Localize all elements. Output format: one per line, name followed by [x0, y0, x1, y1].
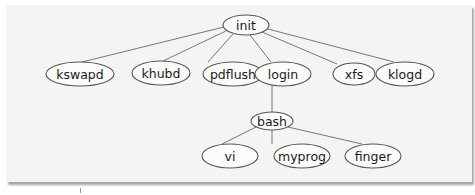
node-init: init [223, 15, 269, 35]
node-label: khubd [142, 66, 181, 81]
edge-init-khubd [163, 31, 226, 61]
node-khubd: khubd [132, 61, 190, 85]
edge-bash-vi [222, 127, 256, 144]
node-pdflush: pdflush [203, 62, 263, 86]
node-kswapd: kswapd [46, 62, 114, 86]
edge-bash-finger [288, 127, 362, 144]
node-label: login [268, 67, 298, 82]
node-vi: vi [202, 144, 258, 168]
edge-init-klogd [268, 29, 394, 62]
node-label: finger [355, 149, 392, 164]
node-bash: bash [251, 112, 293, 130]
process-tree-diagram: initkswapdkhubdpdflushloginxfsklogdbashv… [0, 0, 475, 195]
node-label: init [236, 18, 256, 33]
node-label: pdflush [210, 67, 256, 82]
node-login: login [255, 62, 311, 86]
nodes-group: initkswapdkhubdpdflushloginxfsklogdbashv… [46, 15, 434, 168]
node-label: klogd [388, 67, 422, 82]
node-label: bash [257, 114, 287, 129]
node-label: vi [225, 149, 236, 164]
edge-init-login [250, 35, 271, 62]
margin-tick-mark [80, 188, 81, 193]
edge-init-kswapd [82, 27, 224, 62]
node-label: kswapd [56, 67, 104, 82]
node-label: xfs [345, 67, 363, 82]
node-klogd: klogd [376, 62, 434, 86]
node-myprog: myprog [274, 144, 330, 168]
node-label: myprog [278, 149, 326, 164]
node-xfs: xfs [333, 63, 375, 85]
node-finger: finger [345, 144, 401, 168]
